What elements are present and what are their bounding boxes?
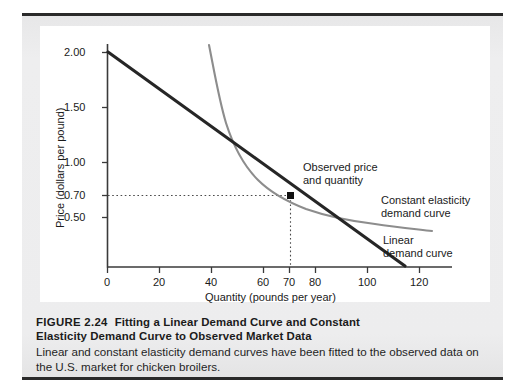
- x-tick-label-40: 40: [205, 276, 217, 288]
- observed-point-annotation-line1: Observed price: [303, 161, 378, 174]
- constant-elasticity-annotation-line1: Constant elasticity: [381, 194, 470, 207]
- x-tick-label-60: 60: [257, 276, 269, 288]
- caption-body-line2: the U.S. market for chicken broilers.: [36, 360, 220, 373]
- constant-elasticity-annotation-line2: demand curve: [381, 207, 451, 220]
- figure-caption: FIGURE 2.24Fitting a Linear Demand Curve…: [36, 316, 498, 374]
- observed-point-marker: [287, 192, 294, 199]
- caption-figure-number: FIGURE 2.24: [36, 316, 108, 328]
- x-axis-ticks: [108, 267, 420, 273]
- figure-page: 2.00 1.50 1.00 0.70 0.50 0 20 40 60 70 8…: [0, 0, 525, 391]
- x-tick-label-80: 80: [309, 276, 321, 288]
- y-axis-title: Price (dollars per pound): [54, 108, 66, 228]
- linear-demand-curve: [108, 52, 405, 266]
- x-tick-label-100: 100: [358, 276, 376, 288]
- y-tick-label-100: 1.00: [64, 156, 85, 168]
- linear-demand-annotation-line1: Linear: [383, 234, 414, 247]
- y-tick-label-150: 1.50: [64, 101, 85, 113]
- caption-body-line1: Linear and constant elasticity demand cu…: [36, 345, 479, 358]
- y-tick-label-200: 2.00: [64, 46, 85, 58]
- caption-body: Linear and constant elasticity demand cu…: [36, 345, 498, 374]
- observed-point-guides: [108, 196, 291, 267]
- x-tick-label-120: 120: [410, 276, 428, 288]
- x-tick-label-20: 20: [153, 276, 165, 288]
- x-axis-title: Quantity (pounds per year): [205, 291, 336, 303]
- linear-demand-annotation-line2: demand curve: [383, 247, 453, 260]
- y-tick-label-050: 0.50: [64, 211, 85, 223]
- y-tick-label-070: 0.70: [64, 189, 85, 201]
- x-tick-label-70: 70: [283, 276, 295, 288]
- caption-title-line2: Elasticity Demand Curve to Observed Mark…: [36, 330, 312, 342]
- caption-title-line1: Fitting a Linear Demand Curve and Consta…: [115, 316, 360, 328]
- x-tick-label-0: 0: [104, 276, 110, 288]
- observed-point-annotation-line2: and quantity: [303, 174, 363, 187]
- caption-heading: FIGURE 2.24Fitting a Linear Demand Curve…: [36, 316, 498, 343]
